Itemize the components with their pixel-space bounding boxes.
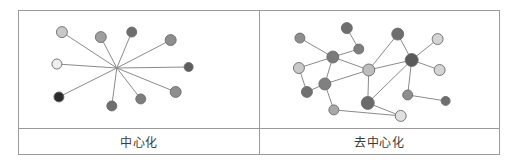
graph-node <box>432 34 443 45</box>
graph-node <box>95 32 106 43</box>
caption-centralized: 中心化 <box>19 129 260 154</box>
decentralized-network-graph <box>260 11 500 128</box>
decentralized-diagram-cell <box>260 11 500 128</box>
graph-edge <box>117 67 189 68</box>
graph-node <box>136 94 146 104</box>
graph-node <box>326 51 338 63</box>
figure-root: 中心化 去中心化 <box>0 0 519 164</box>
graph-node <box>301 86 312 97</box>
graph-node <box>165 35 176 46</box>
graph-node <box>293 63 304 74</box>
graph-edge <box>57 64 117 68</box>
caption-decentralized: 去中心化 <box>260 129 500 154</box>
graph-node <box>294 33 304 43</box>
graph-secondary-hub-node <box>405 54 418 67</box>
graph-edge <box>333 110 400 116</box>
graph-node <box>318 78 330 90</box>
graph-node <box>107 101 117 111</box>
graph-edge <box>324 70 368 84</box>
graph-node <box>395 110 406 121</box>
centralized-diagram-cell <box>19 11 260 128</box>
graph-edge <box>117 40 171 68</box>
graph-node <box>170 86 181 97</box>
graph-node <box>441 96 450 105</box>
graph-node <box>362 64 374 76</box>
graph-node <box>353 44 363 54</box>
graph-edge <box>117 32 132 68</box>
comparison-table: 中心化 去中心化 <box>18 10 500 155</box>
graph-node <box>341 23 352 34</box>
graph-node <box>52 59 62 69</box>
centralized-network-graph <box>19 11 259 128</box>
graph-edge <box>59 68 117 97</box>
graph-node <box>54 92 64 102</box>
graph-node <box>391 28 403 40</box>
graph-node <box>361 96 374 109</box>
graph-edge <box>112 68 117 106</box>
graph-edge <box>62 32 117 68</box>
node-group <box>293 23 450 122</box>
graph-node <box>127 27 137 37</box>
graph-edge <box>407 95 445 101</box>
caption-row: 中心化 去中心化 <box>19 129 499 154</box>
graph-node <box>434 65 445 76</box>
graph-node <box>184 63 193 72</box>
diagram-row <box>19 11 499 129</box>
graph-node <box>328 105 338 115</box>
graph-node <box>402 90 412 100</box>
graph-node <box>56 27 67 38</box>
